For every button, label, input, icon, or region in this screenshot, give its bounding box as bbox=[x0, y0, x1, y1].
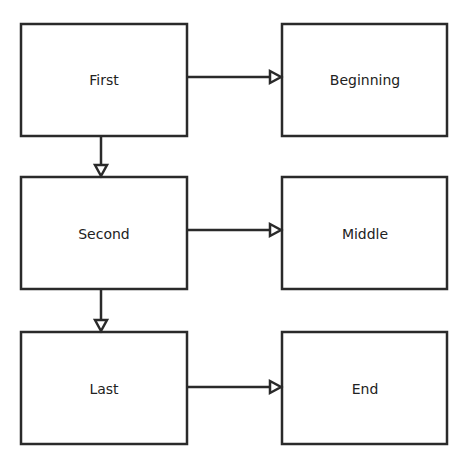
edge-first-beginning bbox=[187, 71, 281, 83]
edge-first-second bbox=[95, 136, 107, 176]
arrowhead-icon bbox=[270, 71, 281, 83]
node-beginning-label: Beginning bbox=[330, 72, 400, 88]
edge-second-last bbox=[95, 289, 107, 331]
edge-last-end bbox=[187, 381, 281, 393]
node-end-label: End bbox=[352, 381, 379, 397]
arrowhead-icon bbox=[270, 224, 281, 236]
arrowhead-icon bbox=[95, 165, 107, 176]
arrowhead-icon bbox=[270, 381, 281, 393]
edge-second-middle bbox=[187, 224, 281, 236]
arrowhead-icon bbox=[95, 320, 107, 331]
flow-diagram: First Beginning Second Middle Last End bbox=[0, 0, 465, 466]
node-first-label: First bbox=[89, 72, 119, 88]
node-last-label: Last bbox=[89, 381, 119, 397]
node-middle-label: Middle bbox=[342, 226, 388, 242]
node-second-label: Second bbox=[78, 226, 130, 242]
